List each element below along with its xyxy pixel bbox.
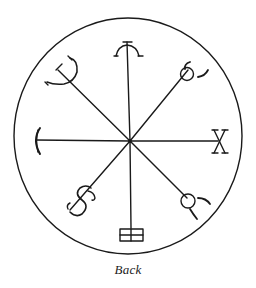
- north-arc-symbol-icon: [114, 42, 143, 56]
- southeast-horned-circle-icon: [181, 194, 210, 219]
- northwest-trident-icon: [45, 56, 77, 85]
- center-point: [129, 140, 131, 142]
- spokes: [36, 42, 218, 228]
- figure-caption: Back: [0, 262, 256, 278]
- northeast-horned-circle-icon: [181, 62, 209, 81]
- southwest-s-curve-icon: [67, 186, 95, 216]
- seal-figure: [0, 0, 256, 288]
- seal-diagram: [0, 0, 256, 288]
- west-crescent-symbol-icon: [36, 128, 40, 154]
- south-box-symbol-icon: [120, 229, 143, 241]
